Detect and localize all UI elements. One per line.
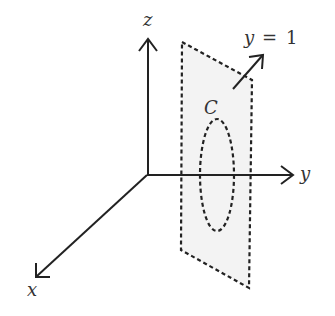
z-axis-label: z [142,9,153,30]
plane-label-value: 1 [286,27,297,48]
y-axis-label: y [299,163,311,184]
z-axis [139,39,157,176]
x-axis [36,175,147,277]
plane-equation-label: y = 1 [243,27,297,48]
coordinate-diagram: z y x C y = 1 [0,0,335,316]
plane-label-variable: y [243,27,255,48]
plane-label-equals: = [262,27,277,48]
curve-c-label: C [204,97,218,118]
x-axis-label: x [27,279,37,300]
